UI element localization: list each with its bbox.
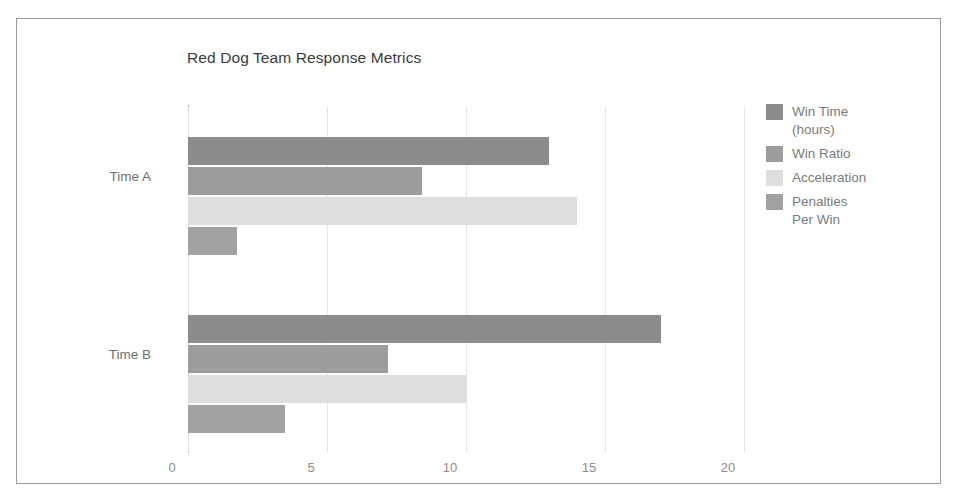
legend-item[interactable]: Win Ratio [766,145,946,163]
legend-label: Penalties Per Win [792,193,848,229]
category-label-time-a: Time A [41,169,151,184]
bar [188,167,422,195]
bar [188,315,661,343]
legend-label: Win Ratio [792,145,851,163]
chart-legend: Win Time (hours)Win RatioAccelerationPen… [766,103,946,235]
legend-swatch-icon [766,104,783,120]
chart-title: Red Dog Team Response Metrics [187,49,421,67]
gridline-20 [744,107,745,452]
legend-item[interactable]: Acceleration [766,169,946,187]
legend-item[interactable]: Penalties Per Win [766,193,946,229]
bar [188,405,285,433]
legend-swatch-icon [766,146,783,162]
x-tick-label: 15 [582,460,596,475]
chart-frame: Red Dog Team Response Metrics 05101520 T… [16,18,941,484]
legend-swatch-icon [766,170,783,186]
plot-area [188,107,745,452]
bar [188,197,577,225]
legend-label: Win Time (hours) [792,103,848,139]
category-label-time-b: Time B [41,347,151,362]
gridline-15 [605,107,606,452]
legend-swatch-icon [766,194,783,210]
bar [188,137,549,165]
x-tick-label: 0 [168,460,175,475]
screenshot-canvas: Red Dog Team Response Metrics 05101520 T… [0,0,959,502]
bar [188,375,466,403]
legend-label: Acceleration [792,169,866,187]
legend-item[interactable]: Win Time (hours) [766,103,946,139]
bar [188,345,388,373]
x-tick-label: 10 [443,460,457,475]
x-tick-label: 5 [307,460,314,475]
x-tick-label: 20 [721,460,735,475]
bar [188,227,237,255]
